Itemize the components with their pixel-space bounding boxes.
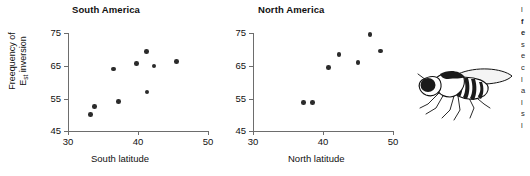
x-tick-50	[393, 131, 394, 135]
y-axis-line	[68, 33, 69, 132]
caption-line: l	[521, 4, 530, 16]
caption-line: l	[521, 74, 530, 86]
data-point	[92, 104, 97, 109]
x-tick-label-30: 30	[240, 136, 266, 147]
panel-title-south-america: South America	[72, 4, 140, 15]
panel-south-america: South America Freequency of Est inversio…	[0, 0, 228, 176]
caption-line: s	[521, 108, 530, 120]
fly-eye	[421, 78, 436, 92]
y-tick-label-45: 45	[224, 125, 246, 136]
x-tick-label-50: 50	[380, 136, 406, 147]
y-axis-line	[253, 33, 254, 132]
data-point	[310, 100, 315, 105]
data-point	[116, 99, 121, 104]
data-point	[378, 49, 383, 54]
y-tick-label-45: 45	[39, 125, 61, 136]
caption-line: l	[521, 120, 530, 132]
y-tick-75	[64, 33, 68, 34]
y-tick-label-55: 55	[39, 93, 61, 104]
y-tick-65	[249, 66, 253, 67]
y-axis-label: Freequency of Est inversion	[7, 7, 29, 115]
caption-line: e	[521, 50, 530, 62]
y-tick-label-55: 55	[224, 93, 246, 104]
y-tick-65	[64, 66, 68, 67]
x-tick-30	[253, 131, 254, 135]
x-tick-40	[323, 131, 324, 135]
x-tick-40	[138, 131, 139, 135]
cut-off-caption-text: l f e s e c l a l s l	[521, 4, 530, 172]
y-tick-label-65: 65	[224, 60, 246, 71]
x-axis-label-south: South latitude	[91, 153, 149, 164]
panel-north-america: North America 75 65 55 45 30 40 50	[228, 0, 418, 176]
data-point	[144, 49, 149, 54]
y-axis-label-subscript: st	[22, 75, 29, 80]
data-point	[356, 60, 361, 65]
caption-line: a	[521, 85, 530, 97]
x-tick-label-50: 50	[195, 136, 221, 147]
drosophila-fly-illustration	[414, 56, 518, 132]
x-tick-50	[208, 131, 209, 135]
data-point	[111, 67, 116, 72]
y-tick-label-75: 75	[39, 27, 61, 38]
y-tick-75	[249, 33, 253, 34]
x-tick-label-30: 30	[55, 136, 81, 147]
data-point	[174, 59, 179, 64]
data-point	[301, 100, 306, 105]
y-axis-label-symbol: E	[18, 80, 28, 86]
x-tick-label-40: 40	[310, 136, 336, 147]
scatter-figure: South America Freequency of Est inversio…	[0, 0, 530, 176]
y-axis-label-line1: Freequency of	[7, 32, 17, 90]
fly-thorax-marking	[440, 71, 465, 79]
data-point	[134, 61, 139, 66]
y-axis-label-suffix: inversion	[18, 36, 28, 75]
data-point	[152, 64, 157, 69]
data-point	[326, 65, 331, 70]
data-point	[368, 32, 373, 37]
plot-area-north-america: 75 65 55 45 30 40 50	[253, 33, 393, 131]
caption-line: l	[521, 97, 530, 109]
y-tick-55	[249, 99, 253, 100]
data-point	[145, 90, 150, 95]
panel-title-north-america: North America	[258, 4, 324, 15]
caption-line: c	[521, 62, 530, 74]
y-tick-label-65: 65	[39, 60, 61, 71]
y-tick-label-75: 75	[224, 27, 246, 38]
data-point	[337, 52, 342, 57]
y-tick-55	[64, 99, 68, 100]
plot-area-south-america: 75 65 55 45 30 40 50	[68, 33, 208, 131]
x-tick-30	[68, 131, 69, 135]
caption-line: s	[521, 39, 530, 51]
y-axis-label-line2: Est inversion	[18, 36, 28, 86]
caption-line: f	[521, 16, 530, 28]
x-tick-label-40: 40	[125, 136, 151, 147]
data-point	[88, 112, 93, 117]
x-axis-label-north: North latitude	[288, 153, 345, 164]
caption-line: e	[521, 27, 530, 39]
